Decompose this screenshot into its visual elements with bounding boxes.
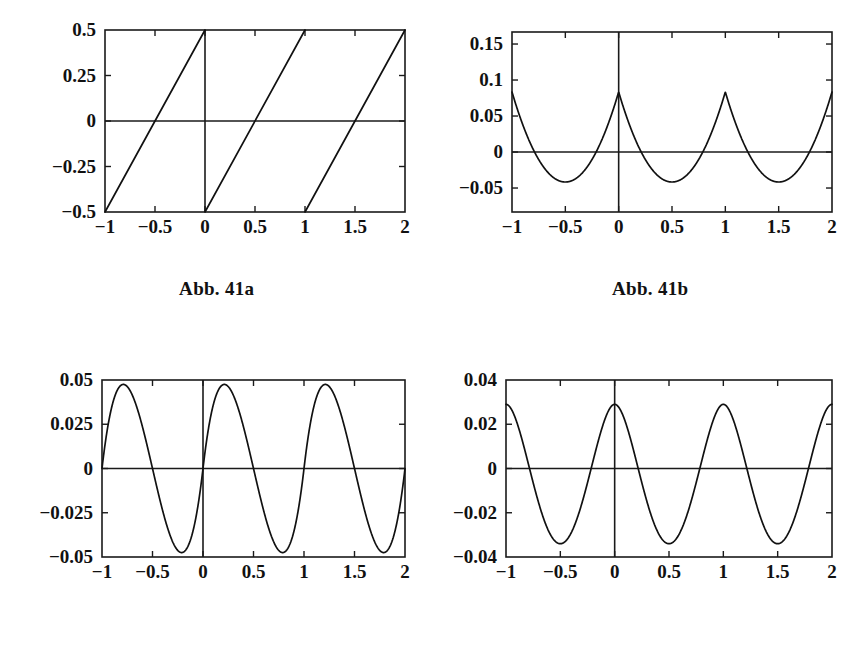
- y-tick-label: −0.04: [452, 546, 497, 567]
- x-tick-label: 0: [198, 561, 208, 582]
- plot-41c: −1−0.500.511.52−0.05−0.02500.0250.05: [0, 328, 434, 656]
- x-tick-label: 2: [400, 216, 410, 237]
- x-tick-label: 0.5: [242, 561, 266, 582]
- y-tick-label: 0.25: [63, 65, 96, 86]
- plot-canvas-41c: −1−0.500.511.52−0.05−0.02500.0250.05: [0, 328, 433, 598]
- caption-41b: Abb. 41b: [434, 278, 867, 300]
- x-tick-label: 1: [299, 561, 309, 582]
- x-tick-label: 2: [827, 561, 837, 582]
- y-tick-label: 0.025: [50, 413, 93, 434]
- x-tick-label: 2: [400, 561, 410, 582]
- data-curve: [506, 404, 832, 543]
- x-tick-label: 1.5: [766, 216, 790, 237]
- y-tick-label: 0.04: [463, 369, 497, 390]
- y-tick-label: 0.15: [469, 33, 502, 54]
- y-tick-label: 0.02: [463, 413, 496, 434]
- x-tick-label: 1: [718, 561, 728, 582]
- figure-cell-41b: −1−0.500.511.52−0.0500.050.10.15 Abb. 41…: [434, 0, 867, 328]
- x-tick-label: −1: [95, 216, 115, 237]
- x-tick-label: −1: [92, 561, 112, 582]
- x-tick-label: 0.5: [657, 561, 681, 582]
- figure-cell-41a: −1−0.500.511.52−0.5−0.2500.250.5 Abb. 41…: [0, 0, 434, 328]
- y-tick-label: −0.02: [452, 502, 496, 523]
- y-tick-label: −0.025: [39, 502, 93, 523]
- plot-frame: [512, 32, 832, 212]
- x-tick-label: 0.5: [243, 216, 267, 237]
- x-tick-label: 0: [609, 561, 619, 582]
- plot-canvas-41d: −1−0.500.511.52−0.04−0.0200.020.04: [434, 328, 867, 598]
- x-tick-label: 0: [613, 216, 623, 237]
- x-tick-label: −1: [501, 216, 521, 237]
- x-tick-label: 0.5: [660, 216, 684, 237]
- data-curve: [512, 92, 832, 182]
- x-tick-label: 1: [720, 216, 730, 237]
- x-tick-label: −0.5: [138, 216, 173, 237]
- x-tick-label: −1: [495, 561, 515, 582]
- caption-41a: Abb. 41a: [0, 278, 434, 300]
- y-tick-label: 0.1: [479, 69, 503, 90]
- y-tick-label: 0.05: [60, 369, 93, 390]
- x-tick-label: 1.5: [343, 561, 367, 582]
- figure-grid: −1−0.500.511.52−0.5−0.2500.250.5 Abb. 41…: [0, 0, 867, 656]
- figure-cell-41d: −1−0.500.511.52−0.04−0.0200.020.04 Abb. …: [434, 328, 867, 656]
- y-tick-label: 0: [87, 110, 97, 131]
- x-tick-label: 1.5: [765, 561, 789, 582]
- x-tick-label: 1: [300, 216, 310, 237]
- y-tick-label: 0.05: [469, 105, 502, 126]
- x-tick-label: 0: [200, 216, 210, 237]
- x-tick-label: −0.5: [548, 216, 583, 237]
- y-tick-label: −0.05: [458, 177, 502, 198]
- y-tick-label: −0.5: [61, 201, 96, 222]
- x-tick-label: 2: [827, 216, 837, 237]
- x-tick-label: 1.5: [343, 216, 367, 237]
- y-tick-label: −0.05: [49, 546, 93, 567]
- plot-41d: −1−0.500.511.52−0.04−0.0200.020.04: [434, 328, 867, 656]
- y-tick-label: 0: [493, 141, 503, 162]
- plot-canvas-41a: −1−0.500.511.52−0.5−0.2500.250.5: [0, 0, 433, 270]
- y-tick-label: 0: [487, 458, 497, 479]
- y-tick-label: −0.25: [52, 156, 96, 177]
- x-tick-label: −0.5: [135, 561, 170, 582]
- y-tick-label: 0: [84, 458, 94, 479]
- figure-cell-41c: −1−0.500.511.52−0.05−0.02500.0250.05 Abb…: [0, 328, 434, 656]
- x-tick-label: −0.5: [543, 561, 578, 582]
- y-tick-label: 0.5: [72, 19, 96, 40]
- plot-canvas-41b: −1−0.500.511.52−0.0500.050.10.15: [434, 0, 867, 270]
